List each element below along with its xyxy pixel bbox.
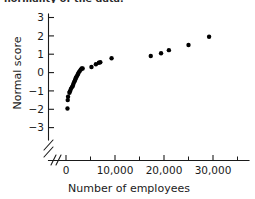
data-point [65,106,69,110]
y-axis-title: Normal score [11,36,24,109]
x-ticklabel-10000: 10,000 [97,164,134,176]
y-axis-ticks [49,18,55,128]
x-ticklabel-0: 0 [63,164,70,176]
data-point [159,51,163,55]
data-point [66,95,70,99]
y-ticklabel-neg3: −3 [29,121,44,133]
y-ticklabel-0: 0 [37,66,44,78]
y-ticklabel-3: 3 [37,11,44,23]
x-axis-ticklabels: 0 10,000 20,000 30,000 [63,164,232,176]
y-axis-ticklabels: 3 2 1 0 −1 −2 −3 [29,11,44,133]
data-point [207,35,211,39]
data-point [98,60,102,64]
x-axis-title: Number of employees [68,182,190,195]
y-ticklabel-1: 1 [37,48,44,60]
data-point [149,54,153,58]
data-points-layer [65,35,211,111]
y-ticklabel-neg2: −2 [29,103,44,115]
x-ticklabel-30000: 30,000 [195,164,232,176]
data-point [167,48,171,52]
y-ticklabel-2: 2 [37,30,44,42]
y-ticklabel-neg1: −1 [29,85,44,97]
data-point [89,65,93,69]
data-point [186,43,190,47]
data-point [80,66,84,70]
scatter-chart: 3 2 1 0 −1 −2 −3 0 10,000 20,000 30, [0,0,255,199]
normal-quantile-plot-figure: normality of the data. 3 2 1 0 −1 −2 [0,0,255,199]
x-ticklabel-20000: 20,000 [146,164,183,176]
data-point [109,56,113,60]
y-axis-break-icon [44,140,53,157]
